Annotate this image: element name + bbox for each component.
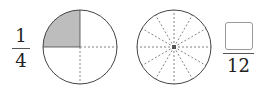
denominator: 12 — [223, 56, 254, 76]
circle-twelfths — [137, 10, 211, 84]
shaded-quarter — [43, 10, 80, 47]
fraction-bar — [223, 53, 254, 54]
circle-quarters — [43, 10, 117, 84]
numerator-answer-box[interactable] — [225, 22, 253, 50]
denominator-twelve: 12 — [223, 56, 254, 76]
